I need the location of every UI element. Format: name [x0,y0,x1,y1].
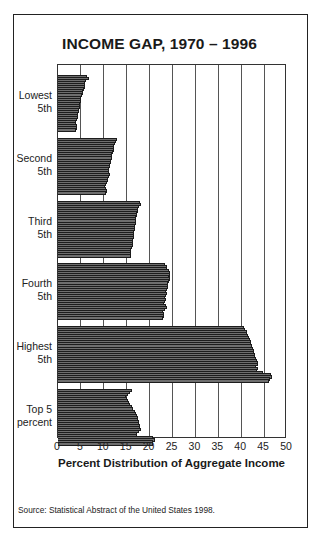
x-tick-label: 45 [257,440,269,452]
x-tick-label: 0 [54,440,60,452]
x-tick-label: 15 [120,440,132,452]
x-axis-label: Percent Distribution of Aggregate Income [57,457,286,469]
x-tick-label: 20 [143,440,155,452]
bar [58,379,269,382]
x-tick-label: 40 [234,440,246,452]
bar [58,128,76,131]
bar [58,191,106,194]
x-tick-label: 10 [97,440,109,452]
category-label: Fourth5th [0,277,52,303]
bar [58,316,163,319]
category-label: Lowest5th [0,89,52,115]
x-tick-label: 50 [280,440,292,452]
category-label: Top 5percent [0,403,52,429]
source-note: Source: Statistical Abstract of the Unit… [18,505,215,515]
x-tick-label: 5 [77,440,83,452]
x-tick-label: 30 [189,440,201,452]
plot-area [57,64,286,438]
category-label: Highest5th [0,340,52,366]
chart-title: INCOME GAP, 1970 – 1996 [0,35,319,53]
category-label: Third5th [0,215,52,241]
x-tick-label: 35 [211,440,223,452]
bar [58,254,131,257]
x-tick-label: 25 [166,440,178,452]
category-label: Second5th [0,152,52,178]
